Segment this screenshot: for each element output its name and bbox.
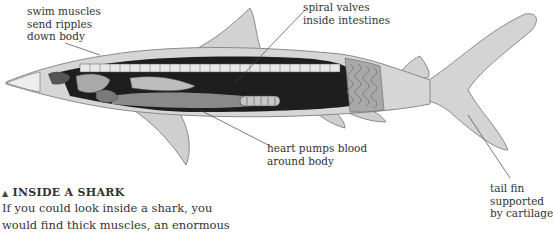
triangle-up-icon: ▲ xyxy=(2,186,8,200)
muscle-band xyxy=(345,58,384,112)
caption-title: ▲ INSIDE A SHARK xyxy=(2,186,262,200)
label-swim-muscles: swim muscles send ripples down body xyxy=(27,5,101,43)
label-heart: heart pumps blood around body xyxy=(267,142,367,167)
pectoral-fin xyxy=(130,108,189,165)
tail-fin xyxy=(418,14,536,150)
caption: ▲ INSIDE A SHARK If you could look insid… xyxy=(2,186,262,234)
spiral-valve-intestine xyxy=(240,96,280,106)
label-spiral-valves: spiral valves inside intestines xyxy=(303,1,390,26)
dorsal-fin xyxy=(190,8,262,52)
leader-swim-muscles xyxy=(65,43,100,55)
label-tail-fin: tail fin supported by cartilage xyxy=(490,182,553,220)
caption-body: If you could look inside a shark, you wo… xyxy=(2,200,262,234)
